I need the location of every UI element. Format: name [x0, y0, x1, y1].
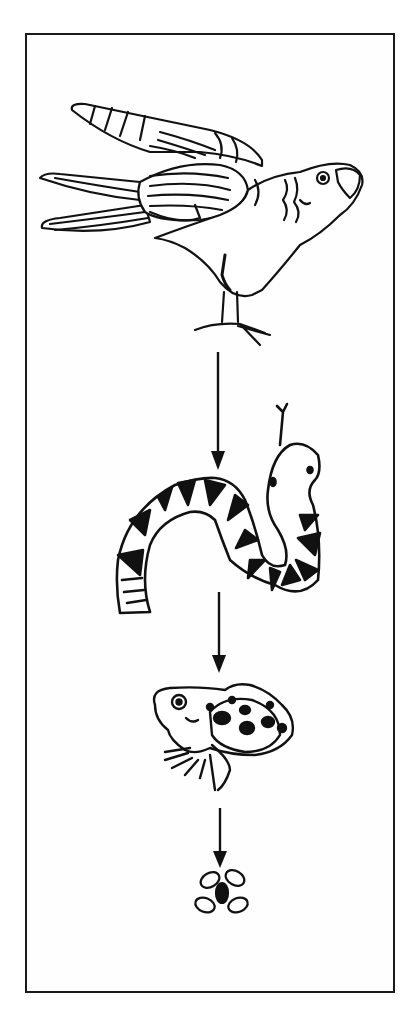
hawk-icon	[40, 104, 363, 345]
food-chain-diagram	[0, 0, 415, 1009]
fly-icon	[193, 867, 250, 915]
arrow-snake-to-frog	[212, 592, 226, 673]
arrow-hawk-to-snake	[211, 352, 225, 470]
arrow-frog-to-fly	[213, 808, 227, 868]
frog-icon	[154, 684, 293, 790]
